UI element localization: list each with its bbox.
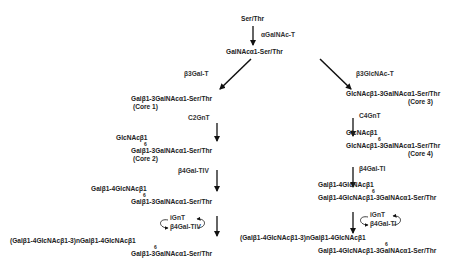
enzyme-b4gal-ti: β4Gal-TI [359,166,385,173]
poly-structure-left: Galβ1-3GalNAcα1-Ser/Thr [131,251,212,258]
core1-label: (Core 1) [133,104,158,111]
ser-thr-start: Ser/Thr [241,16,264,23]
arrow-core3 [320,59,351,89]
core2-label: (Core 2) [133,156,158,163]
tn-antigen: GalNAcα1-Ser/Thr [226,49,283,56]
enzyme-b3glcnac-t: β3GlcNAc-T [356,71,394,78]
core2-branch: GlcNAcβ1 [116,135,148,142]
lacnac-branch-left: Galβ1-4GlcNAcβ1 [91,186,147,193]
lacnac-structure-right: Galβ1-4GlcNAcβ1-3GalNAcα1-Ser/Thr [318,195,436,202]
core3-structure: GlcNAcβ1-3GalNAcα1-Ser/Thr [346,91,440,98]
core2-structure: Galβ1-3GalNAcα1-Ser/Thr [131,148,212,155]
lacnac-branch-right: Galβ1-4GlcNAcβ1 [318,182,374,189]
enzyme-b4gal-tiv: β4Gal-TIV [178,168,209,175]
enzyme-galnac-t: αGalNAc-T [261,32,295,39]
poly-structure-right: Galβ1-4GlcNAcβ1-3GalNAcα1-Ser/Thr [318,248,436,255]
enzyme-c4gnt: C4GnT [359,113,381,120]
core4-structure: GlcNAcβ1-3GalNAcα1-Ser/Thr [346,143,440,150]
core4-label: (Core 4) [408,151,433,158]
arrow-layer [0,0,465,272]
loop-enzyme-ignt-right: iGnT [370,212,385,219]
enzyme-c2gnt: C2GnT [188,115,210,122]
arrow-core1 [220,59,251,89]
loop-arrow-left [161,220,169,228]
poly-branch-left: (Galβ1-4GlcNAcβ1-3)nGalβ1-4GlcNAcβ1 [10,238,136,245]
loop-arrow-right [361,217,369,225]
poly-branch-right: (Galβ1-4GlcNAcβ1-3)nGalβ1-4GlcNAcβ1 [240,235,366,242]
enzyme-b3gal-t: β3Gal-T [184,71,209,78]
loop-enzyme-b4gal-right: β4Gal-TI [370,221,396,228]
lacnac-structure-left: Galβ1-3GalNAcα1-Ser/Thr [131,199,212,206]
core3-label: (Core 3) [408,99,433,106]
core1-structure: Galβ1-3GalNAcα1-Ser/Thr [131,96,212,103]
loop-enzyme-b4gal-left: β4Gal-TIV [170,224,201,231]
core4-branch: GlcNAcβ1 [346,130,378,137]
loop-enzyme-ignt-left: iGnT [170,215,185,222]
